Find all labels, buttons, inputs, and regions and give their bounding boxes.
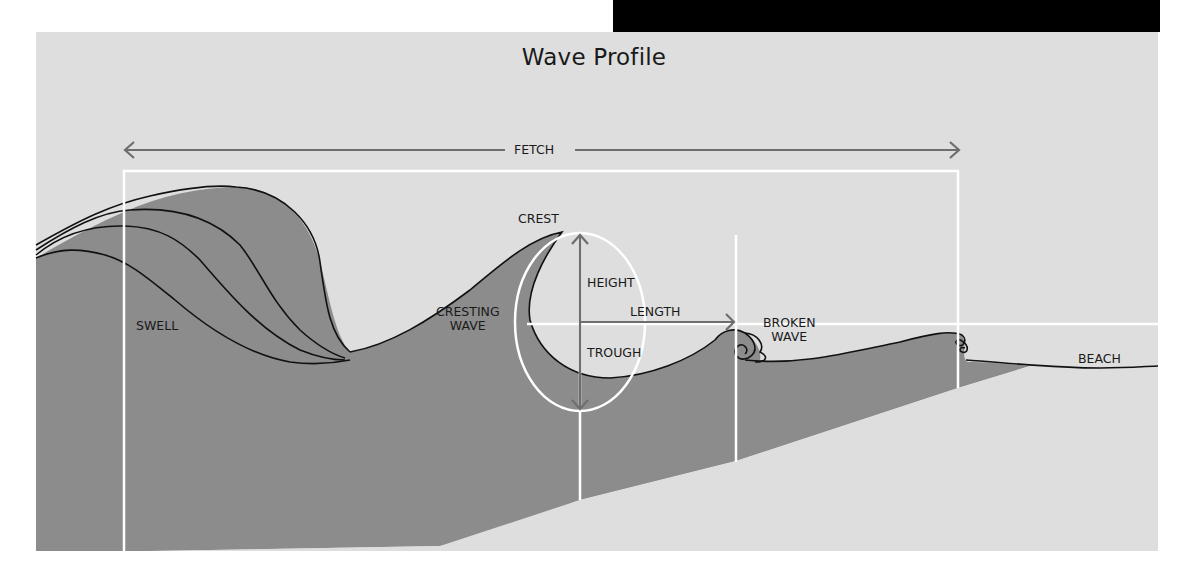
label-fetch-text: FETCH <box>506 142 562 157</box>
label-fetch: FETCH <box>506 143 562 157</box>
label-swell: SWELL <box>136 319 178 333</box>
diagram-title: Wave Profile <box>0 44 1188 70</box>
label-length: LENGTH <box>630 305 681 319</box>
label-broken-wave-line2: WAVE <box>763 330 816 344</box>
label-cresting-wave-line2: WAVE <box>436 319 500 333</box>
label-cresting-wave-line1: CRESTING <box>436 305 500 319</box>
label-broken-wave: BROKEN WAVE <box>763 316 816 344</box>
label-broken-wave-line1: BROKEN <box>763 316 816 330</box>
label-trough: TROUGH <box>587 346 641 360</box>
label-height: HEIGHT <box>587 276 635 290</box>
label-beach: BEACH <box>1078 352 1121 366</box>
label-cresting-wave: CRESTING WAVE <box>436 305 500 333</box>
label-crest: CREST <box>518 212 559 226</box>
